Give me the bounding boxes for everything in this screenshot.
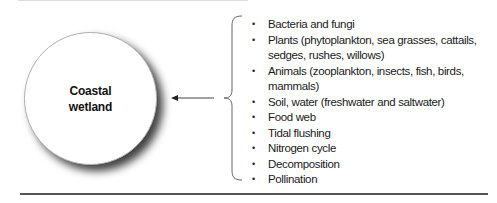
coastal-wetland-node: Coastal wetland (24, 32, 157, 165)
node-label-line2: wetland (69, 100, 112, 114)
list-item: Pollination (250, 172, 490, 188)
list-item: Plants (phytoplankton, sea grasses, catt… (250, 33, 490, 64)
component-list: Bacteria and fungi Plants (phytoplankton… (250, 17, 490, 188)
list-item: Tidal flushing (250, 126, 490, 142)
list-item: Nitrogen cycle (250, 141, 490, 157)
list-item: Bacteria and fungi (250, 17, 490, 33)
list-item: Decomposition (250, 157, 490, 173)
node-label: Coastal wetland (69, 83, 112, 115)
bottom-divider (20, 193, 488, 195)
top-divider (18, 0, 248, 1)
list-item: Soil, water (freshwater and saltwater) (250, 95, 490, 111)
list-item: Animals (zooplankton, insects, fish, bir… (250, 64, 490, 95)
arrow-left-icon (170, 92, 216, 104)
list-item: Food web (250, 110, 490, 126)
node-label-line1: Coastal (70, 84, 112, 98)
curly-brace-icon (222, 14, 244, 182)
